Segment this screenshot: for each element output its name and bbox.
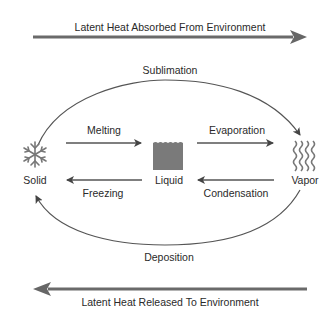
snowflake-icon [24, 142, 46, 167]
evaporation-label: Evaporation [209, 125, 265, 136]
sublimation-label: Sublimation [143, 65, 198, 76]
vapor-waves-icon [294, 141, 315, 171]
deposition-label: Deposition [144, 252, 194, 263]
melting-label: Melting [87, 125, 121, 136]
phase-change-diagram: Latent Heat Absorbed From Environment Su… [0, 0, 331, 321]
freezing-label: Freezing [83, 188, 124, 199]
liquid-label: Liquid [155, 175, 183, 186]
water-block-icon [153, 142, 183, 170]
condensation-label: Condensation [204, 188, 269, 199]
vapor-label: Vapor [291, 175, 318, 186]
heat-released-arrow [33, 282, 307, 296]
diagram-graphics [0, 0, 331, 321]
heat-absorbed-label: Latent Heat Absorbed From Environment [75, 22, 266, 33]
heat-released-label: Latent Heat Released To Environment [81, 297, 258, 308]
solid-label: Solid [23, 175, 46, 186]
